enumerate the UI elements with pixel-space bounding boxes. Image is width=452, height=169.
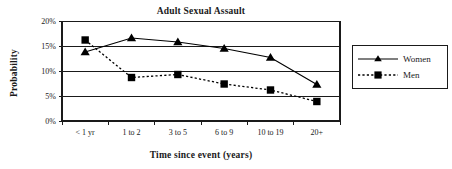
x-axis-ticks: < 1 yr1 to 23 to 56 to 910 to 1920+ (62, 121, 340, 137)
legend-label-men: Men (403, 70, 420, 80)
y-axis-title: Probability (9, 49, 19, 97)
data-point-square (128, 74, 135, 81)
series-line (85, 38, 317, 85)
x-axis-title: Time since event (years) (150, 150, 253, 161)
y-tick-label: 5% (45, 92, 56, 101)
x-tick-label: < 1 yr (76, 128, 96, 137)
data-point-square (267, 86, 274, 93)
legend-box (353, 46, 448, 89)
chart-title: Adult Sexual Assault (157, 6, 246, 16)
data-point-square (220, 80, 227, 87)
data-point-triangle (127, 33, 136, 41)
x-tick-label: 6 to 9 (215, 128, 233, 137)
data-point-triangle (312, 80, 321, 88)
y-tick-label: 15% (41, 42, 56, 51)
chart-container: Adult Sexual Assault Probability Time si… (0, 0, 452, 169)
y-tick-label: 20% (41, 17, 56, 26)
x-tick-label: 10 to 19 (257, 128, 283, 137)
y-tick-label: 10% (41, 67, 56, 76)
x-tick-label: 3 to 5 (169, 128, 187, 137)
legend-label-women: Women (403, 54, 431, 64)
data-point-square (81, 36, 88, 43)
y-axis-ticks: 0%5%10%15%20% (41, 17, 62, 126)
grid-lines (62, 21, 340, 96)
data-point-square (174, 71, 181, 78)
x-tick-label: 1 to 2 (122, 128, 140, 137)
data-series (81, 33, 322, 105)
y-tick-label: 0% (45, 117, 56, 126)
x-tick-label: 20+ (311, 128, 324, 137)
square-marker-icon (374, 71, 381, 78)
adult-sexual-assault-line-chart: Adult Sexual Assault Probability Time si… (0, 0, 452, 169)
data-point-square (313, 98, 320, 105)
chart-legend: Women Men (353, 46, 448, 89)
